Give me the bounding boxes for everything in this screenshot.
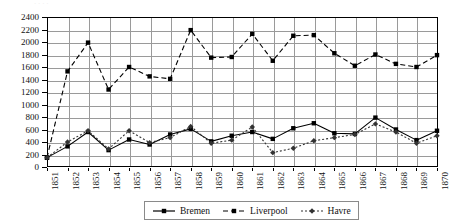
data-point-marker	[332, 131, 336, 135]
legend-label: Liverpool	[250, 206, 287, 216]
x-axis-tick-mark	[334, 168, 335, 171]
x-axis-tick-mark	[293, 168, 294, 171]
data-point-marker	[229, 137, 234, 142]
data-point-marker	[65, 69, 69, 73]
x-axis-tick-label: 1868	[400, 172, 409, 190]
data-point-marker	[250, 32, 254, 36]
data-point-marker	[230, 55, 234, 59]
legend-entry-liverpool[interactable]: Liverpool	[222, 206, 287, 216]
x-axis-tick-mark	[232, 168, 233, 171]
x-axis-tick-label: 1852	[72, 172, 81, 190]
data-point-marker	[332, 135, 337, 140]
x-axis-tick-mark	[314, 168, 315, 171]
x-axis-tick-mark	[252, 168, 253, 171]
data-point-marker	[312, 33, 316, 37]
x-axis-tick-label: 1860	[236, 172, 245, 190]
legend-swatch-diamond-icon	[300, 206, 324, 216]
y-axis-tick-label: 2200	[21, 25, 39, 34]
y-axis-tick-label: 1800	[21, 50, 39, 59]
x-axis-tick-label: 1851	[51, 172, 60, 190]
series-line	[47, 118, 437, 158]
x-axis-tick-mark	[437, 168, 438, 171]
y-axis-tick-label: 1000	[21, 100, 39, 109]
y-axis-tick-label: 200	[26, 150, 40, 159]
x-axis-tick-mark	[88, 168, 89, 171]
y-axis: 0200400600800100012001400160018002000220…	[0, 17, 47, 167]
x-axis-tick-mark	[68, 168, 69, 171]
data-point-marker	[435, 53, 439, 57]
y-axis-tick-label: 1200	[21, 88, 39, 97]
legend-swatch-square-icon	[222, 206, 246, 216]
data-point-marker	[373, 121, 378, 126]
x-axis-tick-mark	[355, 168, 356, 171]
data-point-marker	[394, 62, 398, 66]
x-axis-tick-mark	[150, 168, 151, 171]
data-point-marker	[312, 121, 316, 125]
x-axis-tick-label: 1856	[154, 172, 163, 190]
x-axis-tick-mark	[129, 168, 130, 171]
x-axis-tick-label: 1857	[174, 172, 183, 190]
y-axis-tick-label: 0	[35, 163, 40, 172]
y-axis-tick-label: 600	[26, 125, 40, 134]
x-axis-tick-mark	[416, 168, 417, 171]
data-point-marker	[86, 40, 90, 44]
x-axis-tick-mark	[191, 168, 192, 171]
data-point-marker	[209, 55, 213, 59]
data-point-marker	[188, 28, 192, 32]
series-line	[47, 124, 437, 158]
data-point-marker	[65, 144, 69, 148]
x-axis: 1851185218531854185518561857185818591860…	[47, 168, 438, 202]
x-axis-tick-mark	[396, 168, 397, 171]
x-axis-tick-label: 1867	[379, 172, 388, 190]
x-axis-tick-label: 1869	[420, 172, 429, 190]
data-series-layer	[47, 17, 438, 167]
clipped-title-remnant: · · · ·	[34, 0, 254, 9]
data-point-marker	[250, 130, 254, 134]
data-point-marker	[311, 138, 316, 143]
chart-legend: BremenLiverpoolHavre	[144, 201, 359, 220]
emigration-line-chart: · · · · 02004006008001000120014001600180…	[0, 0, 460, 224]
data-point-marker	[291, 34, 295, 38]
x-axis-tick-label: 1853	[92, 172, 101, 190]
data-point-marker	[291, 146, 296, 151]
data-point-marker	[127, 137, 131, 141]
data-point-marker	[373, 52, 377, 56]
x-axis-tick-mark	[211, 168, 212, 171]
x-axis-tick-label: 1858	[195, 172, 204, 190]
y-axis-tick-label: 800	[26, 113, 40, 122]
y-axis-tick-label: 2000	[21, 38, 39, 47]
data-point-marker	[271, 137, 275, 141]
data-point-marker	[127, 65, 131, 69]
data-point-marker	[65, 139, 70, 144]
data-point-marker	[434, 133, 439, 138]
series-bremen	[45, 115, 439, 159]
x-axis-tick-label: 1855	[133, 172, 142, 190]
data-point-marker	[168, 77, 172, 81]
data-point-marker	[414, 65, 418, 69]
y-axis-tick-label: 1600	[21, 63, 39, 72]
x-axis-tick-label: 1865	[338, 172, 347, 190]
x-axis-tick-label: 1862	[277, 172, 286, 190]
data-point-marker	[435, 129, 439, 133]
data-point-marker	[373, 115, 377, 119]
data-point-marker	[250, 124, 255, 129]
legend-swatch-square-icon	[152, 206, 176, 216]
x-axis-tick-label: 1864	[318, 172, 327, 190]
data-point-marker	[271, 59, 275, 63]
x-axis-tick-mark	[47, 168, 48, 171]
x-axis-tick-mark	[170, 168, 171, 171]
legend-entry-bremen[interactable]: Bremen	[152, 206, 210, 216]
data-point-marker	[106, 87, 110, 91]
y-axis-tick-label: 2400	[21, 13, 39, 22]
data-point-marker	[332, 51, 336, 55]
data-point-marker	[353, 64, 357, 68]
data-point-marker	[291, 126, 295, 130]
series-liverpool	[45, 28, 439, 160]
legend-entry-havre[interactable]: Havre	[300, 206, 351, 216]
x-axis-tick-mark	[375, 168, 376, 171]
x-axis-tick-label: 1863	[297, 172, 306, 190]
series-line	[47, 30, 437, 158]
data-point-marker	[147, 74, 151, 78]
x-axis-tick-label: 1866	[359, 172, 368, 190]
y-axis-tick-label: 1400	[21, 75, 39, 84]
